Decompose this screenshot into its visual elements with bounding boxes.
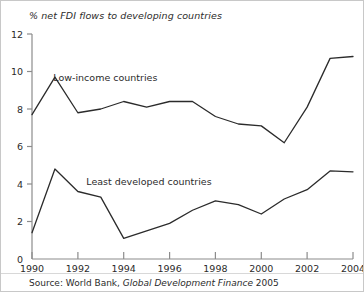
- y-tick-label: 2: [17, 216, 23, 227]
- source-note: Source: World Bank, Global Development F…: [29, 278, 279, 288]
- series-line-low-income: [32, 57, 353, 143]
- source-prefix: Source: World Bank,: [29, 278, 120, 288]
- y-tick-label: 12: [11, 29, 23, 40]
- series-label-low-income: Low-income countries: [53, 72, 157, 83]
- y-tick-label: 8: [17, 104, 23, 115]
- chart-figure: % net FDI flows to developing countries …: [0, 0, 364, 292]
- chart-plot-area: 12 10 8 6 4 2 0 1990 1992 1994 1996 1998: [1, 1, 364, 292]
- source-publication: Global Development Finance: [123, 278, 253, 288]
- x-axis-ticks: [32, 252, 353, 259]
- y-tick-label: 6: [17, 141, 23, 152]
- source-year: 2005: [256, 278, 279, 288]
- series-label-least-developed: Least developed countries: [86, 176, 211, 187]
- y-tick-label: 10: [11, 66, 23, 77]
- y-axis-tick-labels: 12 10 8 6 4 2 0: [11, 29, 23, 265]
- source-divider: [1, 273, 363, 274]
- y-tick-label: 4: [17, 179, 23, 190]
- y-axis-ticks: [27, 34, 32, 222]
